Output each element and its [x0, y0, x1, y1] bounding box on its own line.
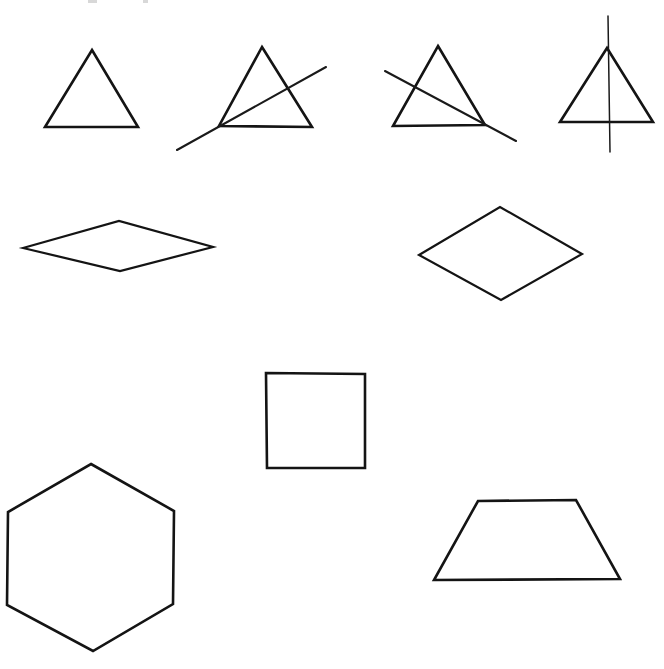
shapes-drawing: [0, 0, 664, 669]
faint-mark-left: [88, 0, 97, 3]
shape-rhombus-tall[interactable]: [419, 207, 582, 300]
row-square: [266, 373, 365, 468]
line-ascending[interactable]: [177, 67, 326, 150]
row-triangles: [45, 16, 653, 152]
shape-hexagon[interactable]: [7, 464, 174, 651]
row-rhombuses: [23, 207, 582, 300]
figure-canvas: [0, 0, 664, 669]
shape-trapezoid[interactable]: [434, 500, 620, 580]
line-vertical[interactable]: [608, 16, 610, 152]
faint-mark-right: [143, 0, 148, 3]
shape-triangle-plain[interactable]: [45, 50, 138, 127]
faint-top-marks: [88, 0, 148, 3]
shape-triangle-with-vertical-line[interactable]: [560, 48, 653, 122]
shape-square[interactable]: [266, 373, 365, 468]
shape-triangle-with-line-descending[interactable]: [393, 46, 485, 126]
row-hexagon-trapezoid: [7, 464, 620, 651]
shape-triangle-with-line-ascending[interactable]: [219, 47, 312, 127]
shape-rhombus-flat[interactable]: [23, 221, 213, 271]
